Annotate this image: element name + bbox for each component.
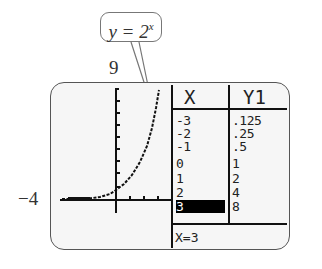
table-cell-x[interactable]: 0 [176,157,183,170]
table-cell-x-selected[interactable]: 3 [176,200,183,213]
table-cell-y[interactable]: 8 [232,200,239,213]
table-cell-x[interactable]: 2 [176,186,183,199]
table-cell-x[interactable]: 1 [176,172,183,185]
table-cell-y[interactable]: .5 [232,140,247,153]
table-header-x: X [184,86,195,108]
table-cell-y[interactable]: 4 [232,186,239,199]
graph-plot [0,0,322,269]
table-cell-y[interactable]: 2 [232,172,239,185]
selected-row-highlight [176,200,225,213]
table-header-y1: Y1 [243,86,266,108]
status-line: X=3 [175,230,198,245]
table-cell-x[interactable]: -1 [176,140,191,153]
table-cell-y[interactable]: 1 [232,157,239,170]
